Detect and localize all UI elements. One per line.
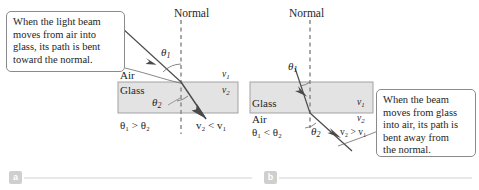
v2-subscript-b: 2 (361, 117, 364, 124)
v1-subscript-b: 1 (361, 101, 364, 108)
theta1-label-a: θ1 (161, 47, 170, 61)
angle-relation-a: θ₁ > θ₂ (120, 120, 150, 131)
v1-subscript-a: 1 (226, 73, 229, 80)
speed-relation-b: v₂ > v₁ (340, 127, 366, 138)
theta2-label-a: θ2 (152, 97, 161, 111)
callout-box-a: When the light beam moves from air into … (6, 11, 125, 72)
normal-label-a: Normal (174, 8, 209, 19)
angle-relation-b: θ₁ < θ₂ (252, 127, 282, 138)
refraction-figure: When the light beam moves from air into … (0, 0, 479, 190)
refracted-ray-arrowhead-b (328, 128, 342, 138)
callout-a-line-1: When the light beam (13, 16, 119, 29)
speed-v2-label-b: v2 (357, 113, 365, 126)
theta2-subscript-b: 2 (316, 130, 320, 139)
panel-a-graphics (118, 20, 238, 134)
speed-v2-label-a: v2 (222, 85, 230, 98)
theta1-label-b: θ1 (288, 61, 297, 75)
medium-label-air-a: Air (120, 70, 135, 81)
theta2-label-b: θ2 (311, 126, 320, 140)
theta1-subscript-b: 1 (293, 65, 297, 74)
callout-b-line-5: the normal. (383, 144, 470, 157)
incident-ray-arrowhead-a (146, 58, 157, 65)
callout-b-line-3: into air, its path is (383, 119, 470, 132)
v2-subscript-a: 2 (226, 89, 229, 96)
callout-a-line-2: moves from air into (13, 29, 119, 42)
callout-box-b: When the beam moves from glass into air,… (376, 89, 476, 157)
callout-b-line-4: bent away from (383, 132, 470, 145)
speed-v1-label-a: v1 (222, 69, 230, 82)
callout-b-line-1: When the beam (383, 94, 470, 107)
medium-label-glass-a: Glass (120, 85, 144, 96)
speed-v1-label-b: v1 (357, 97, 365, 110)
panel-tag-a: a (9, 171, 22, 184)
callout-b-line-2: moves from glass (383, 107, 470, 120)
speed-relation-a: v₂ < v₁ (196, 120, 226, 131)
theta2-subscript-a: 2 (157, 101, 161, 110)
panel-tag-b: b (264, 171, 277, 184)
callout-a-line-3: glass, its path is bent (13, 41, 119, 54)
normal-label-b: Normal (289, 8, 324, 19)
theta1-subscript-a: 1 (166, 51, 170, 60)
callout-a-line-4: toward the normal. (13, 54, 119, 67)
medium-label-air-b: Air (252, 114, 267, 125)
medium-label-glass-b: Glass (252, 98, 276, 109)
